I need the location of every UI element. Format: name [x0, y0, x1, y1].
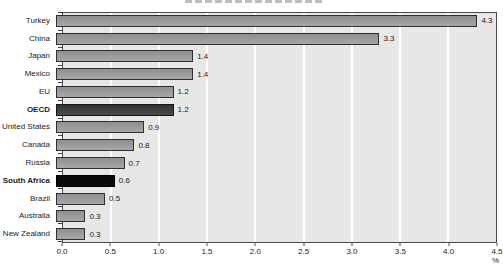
table-row: New Zealand 0.3 — [0, 225, 497, 243]
bar — [56, 33, 379, 45]
table-row: Japan 1.4 — [0, 48, 497, 66]
x-axis-tick — [206, 243, 207, 246]
category-label: OECD — [0, 106, 56, 114]
x-axis-tick-label: 0.5 — [105, 247, 116, 256]
table-row: South Africa 0.6 — [0, 172, 497, 190]
bar-track: 0.3 — [56, 225, 497, 243]
category-label: Brazil — [0, 195, 56, 203]
x-axis-tick — [255, 243, 256, 246]
category-label: EU — [0, 88, 56, 96]
x-axis-tick — [158, 243, 159, 246]
bar-track: 0.6 — [56, 172, 497, 190]
table-row: Russia 0.7 — [0, 154, 497, 172]
bar — [56, 86, 174, 98]
bar — [56, 68, 193, 80]
x-axis-tick — [448, 243, 449, 246]
bar-track: 0.5 — [56, 190, 497, 208]
bar — [56, 50, 193, 62]
table-row: China 3.3 — [0, 30, 497, 48]
x-axis-tick-label: 0.0 — [56, 247, 67, 256]
x-axis-tick-label: 4.0 — [443, 247, 454, 256]
bar-value: 1.2 — [178, 105, 189, 114]
x-axis-tick — [303, 243, 304, 246]
table-row: Turkey 4.3 — [0, 12, 497, 30]
x-axis-tick — [110, 243, 111, 246]
category-label: United States — [0, 123, 56, 131]
x-axis-tick-label: 4.5 — [491, 247, 502, 256]
bar — [56, 175, 115, 187]
bar-value: 0.6 — [119, 176, 130, 185]
bar — [56, 193, 105, 205]
x-axis-tick — [62, 243, 63, 246]
bar-value: 0.3 — [89, 230, 100, 239]
x-axis-tick-label: 2.5 — [298, 247, 309, 256]
x-axis-tick — [497, 243, 498, 246]
x-axis-tick-label: 1.5 — [201, 247, 212, 256]
bar-track: 0.3 — [56, 207, 497, 225]
x-axis: % 0.00.51.01.52.02.53.03.54.04.5 — [62, 247, 497, 273]
bar-value: 1.2 — [178, 87, 189, 96]
bar-track: 1.2 — [56, 83, 497, 101]
bar-value: 0.7 — [129, 159, 140, 168]
x-axis-tick-label: 1.0 — [153, 247, 164, 256]
bar-chart: Turkey 4.3 China 3.3 Japan 1.4 Mexico 1.… — [0, 0, 503, 280]
unit-label: % — [492, 256, 499, 265]
bar-track: 0.8 — [56, 136, 497, 154]
bar-track: 1.4 — [56, 65, 497, 83]
bar-value: 0.3 — [89, 212, 100, 221]
x-axis-tick-label: 2.0 — [250, 247, 261, 256]
category-label: Australia — [0, 212, 56, 220]
x-axis-tick-label: 3.0 — [346, 247, 357, 256]
bar-value: 0.9 — [148, 123, 159, 132]
category-label: New Zealand — [0, 230, 56, 238]
bar-value: 4.3 — [481, 16, 492, 25]
bar — [56, 104, 174, 116]
clipped-chart-title — [185, 0, 325, 3]
category-label: Russia — [0, 159, 56, 167]
bar-track: 4.3 — [56, 12, 497, 30]
bar — [56, 210, 85, 222]
bar-track: 1.4 — [56, 48, 497, 66]
bar-track: 0.7 — [56, 154, 497, 172]
table-row: EU 1.2 — [0, 83, 497, 101]
category-label: Canada — [0, 141, 56, 149]
table-row: Australia 0.3 — [0, 207, 497, 225]
bar — [56, 228, 85, 240]
bar-value: 0.5 — [109, 194, 120, 203]
bar-value: 1.4 — [197, 70, 208, 79]
table-row: United States 0.9 — [0, 119, 497, 137]
bar-track: 3.3 — [56, 30, 497, 48]
x-axis-tick — [400, 243, 401, 246]
table-row: OECD 1.2 — [0, 101, 497, 119]
category-label: Japan — [0, 52, 56, 60]
category-label: Turkey — [0, 17, 56, 25]
bar — [56, 121, 144, 133]
bar — [56, 157, 125, 169]
category-label: South Africa — [0, 177, 56, 185]
category-label: Mexico — [0, 70, 56, 78]
bar-value: 0.8 — [138, 141, 149, 150]
bar-value: 3.3 — [383, 34, 394, 43]
rows: Turkey 4.3 China 3.3 Japan 1.4 Mexico 1.… — [0, 12, 497, 243]
bar — [56, 15, 477, 27]
x-axis-tick-label: 3.5 — [395, 247, 406, 256]
table-row: Canada 0.8 — [0, 136, 497, 154]
bar-track: 1.2 — [56, 101, 497, 119]
table-row: Brazil 0.5 — [0, 190, 497, 208]
bar-track: 0.9 — [56, 119, 497, 137]
x-axis-tick — [351, 243, 352, 246]
table-row: Mexico 1.4 — [0, 65, 497, 83]
bar — [56, 139, 134, 151]
category-label: China — [0, 35, 56, 43]
bar-value: 1.4 — [197, 52, 208, 61]
